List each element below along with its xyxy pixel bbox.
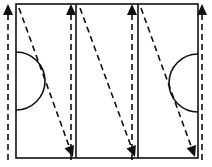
- sprint-up-arrow: [3, 4, 13, 160]
- right-goal-area: [169, 54, 198, 112]
- arrowhead-icon: [3, 4, 13, 15]
- arrowhead-icon: [127, 145, 136, 157]
- sprint-up-arrow: [127, 4, 137, 160]
- drill-diagram: [0, 0, 212, 167]
- diagonal-run-arrow: [19, 8, 74, 157]
- goal-areas: [16, 52, 198, 112]
- arrowhead-icon: [187, 145, 196, 157]
- sprint-up-arrow: [66, 4, 76, 160]
- lane-dividers: [76, 4, 138, 158]
- field-boundary: [16, 4, 198, 158]
- arrowhead-icon: [65, 145, 74, 157]
- dashed-path: [19, 8, 69, 147]
- dashed-path: [141, 8, 191, 147]
- dashed-path: [80, 8, 131, 147]
- diagonal-run-arrow: [80, 8, 136, 157]
- left-goal-area: [16, 52, 45, 110]
- field-outline: [16, 4, 198, 158]
- arrowhead-icon: [66, 4, 76, 15]
- arrowhead-icon: [127, 4, 137, 15]
- sideline-sprint-arrows: [3, 4, 207, 160]
